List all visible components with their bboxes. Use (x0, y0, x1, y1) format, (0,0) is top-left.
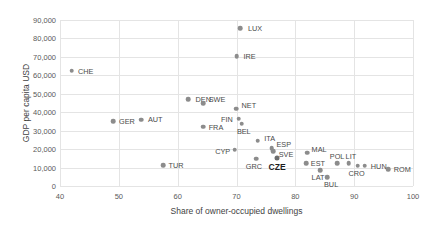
data-label-fra: FRA (209, 122, 224, 131)
data-point-cze[interactable] (275, 155, 280, 160)
data-point-swe[interactable] (201, 101, 206, 106)
data-label-lat: LAT (312, 172, 325, 181)
data-point-lux[interactable] (238, 26, 243, 31)
x-tick-label: 60 (173, 192, 181, 201)
data-point-ger[interactable] (111, 119, 116, 124)
data-label-sve: SVE (279, 149, 294, 158)
data-label-swe: SWE (209, 95, 226, 104)
data-point-ita[interactable] (255, 139, 260, 144)
data-label-ire: IRE (243, 52, 255, 61)
data-label-hun: HUN (371, 161, 387, 170)
gridline-vertical (60, 20, 61, 186)
gridline-vertical (295, 20, 296, 186)
x-tick-label: 80 (291, 192, 299, 201)
data-label-tur: TUR (168, 160, 183, 169)
data-point-sve[interactable] (271, 149, 276, 154)
data-point-rom[interactable] (386, 167, 391, 172)
data-label-ger: GER (119, 117, 135, 126)
scatter-chart: 010,00020,00030,00040,00050,00060,00070,… (0, 0, 433, 231)
data-label-lux: LUX (248, 23, 262, 32)
data-label-esp: ESP (276, 140, 291, 149)
x-axis-title: Share of owner-occupied dwellings (60, 206, 413, 216)
data-point-net[interactable] (234, 106, 239, 111)
data-point-ire[interactable] (234, 54, 239, 59)
data-point-mal[interactable] (305, 151, 310, 156)
data-label-rom: ROM (394, 165, 411, 174)
data-point-cyp[interactable] (232, 148, 237, 153)
data-label-cze: CZE (269, 162, 286, 172)
data-label-ita: ITA (264, 133, 275, 142)
data-label-bul: BUL (324, 179, 338, 188)
plot-area: CHELUXIREDENSWENETGERAUTFINBELFRAITAESPS… (60, 20, 413, 186)
data-point-den[interactable] (186, 97, 191, 102)
data-label-aut: AUT (148, 114, 163, 123)
data-label-net: NET (242, 100, 257, 109)
data-point-che[interactable] (69, 68, 74, 73)
data-label-cyp: CYP (215, 146, 230, 155)
data-point-lit[interactable] (347, 161, 352, 166)
data-label-che: CHE (78, 66, 93, 75)
gridline-vertical (413, 20, 414, 186)
y-axis-title-holder: GDP per capita USD (0, 20, 14, 186)
data-point-fra[interactable] (201, 124, 206, 129)
data-point-fin[interactable] (237, 116, 242, 121)
data-label-bel: BEL (237, 126, 251, 135)
x-tick-label: 100 (407, 192, 420, 201)
data-label-est: EST (311, 158, 325, 167)
data-label-cro: CRO (349, 168, 365, 177)
data-point-aut[interactable] (139, 117, 144, 122)
data-point-tur[interactable] (161, 163, 166, 168)
x-tick-label: 70 (232, 192, 240, 201)
data-label-grc: GRC (246, 161, 262, 170)
data-label-mal: MAL (312, 144, 327, 153)
data-point-pol[interactable] (335, 161, 340, 166)
x-tick-label: 40 (56, 192, 64, 201)
x-tick-label: 90 (350, 192, 358, 201)
gridline-vertical (237, 20, 238, 186)
gridline-vertical (354, 20, 355, 186)
x-tick-label: 50 (115, 192, 123, 201)
data-label-lit: LIT (346, 151, 357, 160)
data-label-pol: POL (330, 151, 345, 160)
data-point-est[interactable] (304, 161, 309, 166)
gridline-vertical (119, 20, 120, 186)
gridline-horizontal (60, 186, 413, 187)
data-point-hun[interactable] (362, 164, 367, 169)
y-axis-title: GDP per capita USD (21, 33, 31, 173)
